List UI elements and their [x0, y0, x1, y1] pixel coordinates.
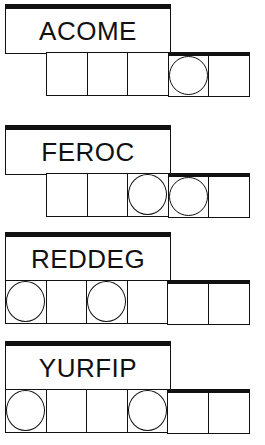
- jumble-puzzle-2: FEROC: [0, 125, 265, 225]
- letter-box[interactable]: [208, 280, 250, 325]
- circled-letter-box[interactable]: [168, 52, 210, 97]
- letter-box[interactable]: [127, 52, 169, 96]
- letter-box[interactable]: [86, 389, 128, 433]
- jumble-puzzle-3: REDDEG: [0, 232, 265, 332]
- answer-row: [5, 389, 250, 433]
- scrambled-word: REDDEG: [5, 232, 171, 282]
- scrambled-word: ACOME: [5, 4, 171, 54]
- scrambled-word: YURFIP: [5, 341, 171, 391]
- letter-box[interactable]: [167, 280, 209, 325]
- answer-row: [46, 52, 250, 96]
- letter-box[interactable]: [127, 280, 169, 324]
- letter-box[interactable]: [46, 173, 88, 217]
- circled-letter-box[interactable]: [5, 280, 47, 324]
- scrambled-word: FEROC: [5, 125, 171, 175]
- letter-box[interactable]: [167, 389, 209, 434]
- letter-box[interactable]: [208, 389, 250, 434]
- letter-box[interactable]: [208, 52, 250, 97]
- jumble-puzzle-1: ACOME: [0, 4, 265, 104]
- circled-letter-box[interactable]: [168, 173, 210, 218]
- circled-letter-box[interactable]: [86, 280, 128, 324]
- answer-row: [5, 280, 250, 324]
- circled-letter-box[interactable]: [127, 389, 169, 433]
- letter-box[interactable]: [87, 52, 129, 96]
- answer-row: [46, 173, 250, 217]
- letter-box[interactable]: [208, 173, 250, 218]
- circled-letter-box[interactable]: [127, 173, 169, 217]
- letter-box[interactable]: [46, 280, 88, 324]
- letter-box[interactable]: [46, 389, 88, 433]
- letter-box[interactable]: [46, 52, 88, 96]
- letter-box[interactable]: [87, 173, 129, 217]
- circled-letter-box[interactable]: [5, 389, 47, 433]
- jumble-puzzle-4: YURFIP: [0, 341, 265, 441]
